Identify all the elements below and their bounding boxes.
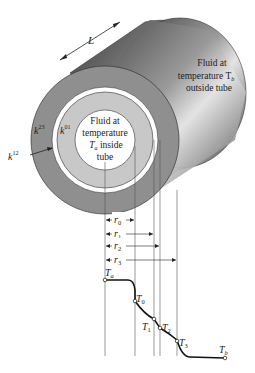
length-label: L: [87, 34, 94, 46]
T0-label: T0: [136, 293, 145, 305]
T2-label: T2: [162, 322, 171, 334]
svg-text:Fluid at: Fluid at: [197, 58, 227, 68]
svg-text:Fluid at: Fluid at: [90, 116, 120, 126]
Ta-label: Ta: [105, 267, 114, 279]
T3-label: T3: [179, 337, 188, 349]
radius-labels: r0 r1 r2 r3: [112, 212, 126, 266]
temperature-profile: [103, 278, 227, 360]
Tb-label: Tb: [219, 344, 229, 356]
svg-text:outside tube: outside tube: [186, 83, 232, 93]
svg-text:temperature: temperature: [82, 128, 127, 138]
T1-label: T1: [142, 321, 151, 333]
heat-conduction-diagram: L Fluid at temperature Tb outside tube F…: [0, 0, 255, 373]
k12-label: k12: [8, 150, 18, 162]
svg-text:Ta inside: Ta inside: [89, 140, 122, 151]
svg-text:tube: tube: [97, 152, 113, 162]
svg-text:temperature Tb: temperature Tb: [178, 71, 234, 82]
